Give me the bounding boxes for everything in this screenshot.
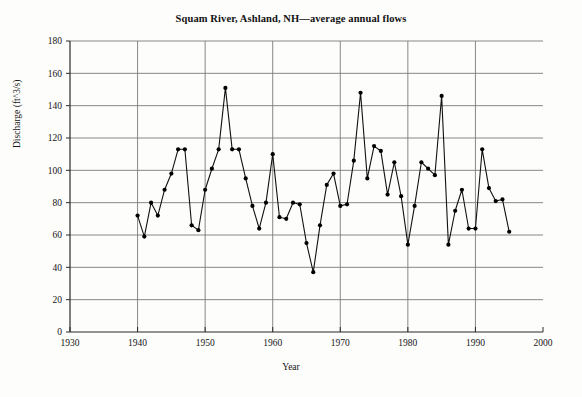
data-point [190,223,194,227]
data-point [399,194,403,198]
data-point [223,86,227,90]
data-point [291,201,295,205]
data-point [217,147,221,151]
data-point [237,147,241,151]
data-point [453,209,457,213]
x-tick-label: 1950 [196,338,215,348]
data-point [446,243,450,247]
data-point [311,270,315,274]
y-tick-label: 80 [53,198,63,208]
x-tick-label: 1940 [128,338,147,348]
data-point [203,188,207,192]
data-point [413,204,417,208]
data-point [473,226,477,230]
data-point [480,147,484,151]
chart-page: Squam River, Ashland, NH—average annual … [0,0,582,397]
data-point [210,167,214,171]
data-point [230,147,234,151]
data-point [385,192,389,196]
data-point [352,159,356,163]
series-line [138,88,510,272]
data-point [345,202,349,206]
y-tick-label: 140 [48,101,63,111]
data-point [196,228,200,232]
y-tick-label: 40 [53,263,63,273]
data-point [277,215,281,219]
tick-labels: 0204060801001201401601801930194019501960… [48,36,553,348]
y-tick-label: 100 [48,166,63,176]
data-point [372,144,376,148]
chart-plot-area: 0204060801001201401601801930194019501960… [0,0,582,397]
data-point [304,241,308,245]
data-point [392,160,396,164]
data-point [358,91,362,95]
data-point [426,167,430,171]
data-point [440,94,444,98]
data-point [318,223,322,227]
data-point [419,160,423,164]
data-point [298,202,302,206]
data-point [284,217,288,221]
x-tick-label: 2000 [534,338,553,348]
data-point [264,201,268,205]
data-point [365,176,369,180]
data-point-markers [135,86,511,275]
data-point [244,176,248,180]
data-point [156,214,160,218]
y-tick-label: 160 [48,69,63,79]
data-point [135,214,139,218]
y-tick-label: 20 [53,295,63,305]
data-point [169,171,173,175]
data-point [467,226,471,230]
data-point [325,183,329,187]
data-point [331,171,335,175]
data-point [257,226,261,230]
data-point [142,235,146,239]
x-tick-label: 1930 [61,338,80,348]
y-tick-label: 180 [48,36,63,46]
data-point [250,204,254,208]
axis-lines [70,41,543,332]
data-point [494,199,498,203]
data-point [176,147,180,151]
y-tick-label: 120 [48,133,63,143]
data-point [500,197,504,201]
data-point [433,173,437,177]
y-tick-label: 60 [53,230,63,240]
data-point [406,243,410,247]
data-point [460,188,464,192]
gridlines [70,41,543,332]
data-point [149,201,153,205]
data-point [487,186,491,190]
x-tick-label: 1970 [331,338,350,348]
data-point [507,230,511,234]
y-tick-label: 0 [57,327,62,337]
data-point [183,147,187,151]
data-point [271,152,275,156]
data-point [379,149,383,153]
x-tick-label: 1960 [263,338,282,348]
x-tick-label: 1980 [398,338,417,348]
data-point [163,188,167,192]
data-line-series [138,88,510,272]
data-point [338,204,342,208]
x-tick-label: 1990 [466,338,485,348]
